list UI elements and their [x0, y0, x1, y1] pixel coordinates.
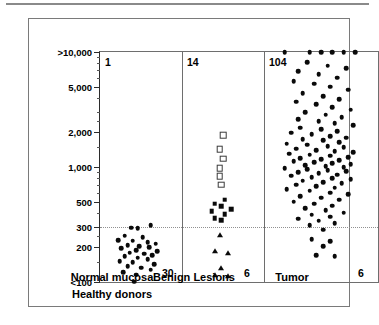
data-point	[323, 112, 328, 117]
data-point	[335, 129, 340, 134]
data-point	[298, 194, 303, 199]
y-axis-tick-label: 2,000	[68, 127, 92, 138]
data-point	[328, 239, 333, 244]
data-point	[140, 235, 145, 240]
data-point	[348, 107, 353, 112]
y-axis-minor-tick	[97, 121, 101, 122]
data-point	[150, 253, 155, 258]
data-point	[216, 165, 223, 172]
data-point	[291, 159, 296, 164]
group-label-benign-lesions: Benign Lesions	[153, 271, 235, 283]
panel-count-bottom: 6	[244, 267, 250, 279]
data-point	[321, 244, 326, 249]
data-point	[139, 265, 144, 270]
y-axis-minor-tick	[97, 193, 101, 194]
data-point	[330, 203, 335, 208]
panel-count-top: 14	[187, 56, 199, 68]
data-point	[335, 75, 340, 80]
data-point	[316, 219, 321, 224]
data-point	[328, 214, 333, 219]
data-point	[310, 132, 315, 137]
data-point	[321, 227, 326, 232]
data-point	[348, 162, 353, 167]
data-point	[316, 72, 321, 77]
data-point	[330, 105, 335, 110]
data-point	[319, 127, 324, 132]
data-point	[220, 132, 227, 139]
data-point	[305, 60, 310, 65]
data-point	[145, 257, 150, 262]
data-point	[122, 234, 127, 239]
panel-count-bottom: 6	[358, 267, 364, 279]
data-point	[328, 154, 333, 159]
y-axis-minor-tick	[97, 57, 101, 58]
data-point	[332, 254, 337, 259]
y-axis-minor-tick	[97, 172, 101, 173]
data-point	[342, 50, 347, 55]
panel-count-top: 104	[269, 56, 287, 68]
data-point	[316, 119, 321, 124]
data-point	[131, 239, 136, 244]
data-point	[326, 168, 331, 173]
panel-divider	[264, 52, 265, 282]
data-point	[225, 250, 231, 255]
data-point	[353, 50, 358, 55]
data-point	[332, 221, 337, 226]
data-point	[330, 176, 335, 181]
data-point	[305, 142, 310, 147]
data-point	[326, 144, 331, 149]
data-point	[351, 150, 356, 155]
data-point	[314, 102, 319, 107]
data-point	[122, 254, 127, 259]
data-point	[127, 250, 132, 255]
data-point	[294, 183, 299, 188]
data-point	[209, 209, 214, 214]
y-axis-tick-label: >10,000	[57, 47, 92, 58]
data-point	[344, 135, 349, 140]
data-point	[153, 241, 158, 246]
data-point	[330, 161, 335, 166]
data-point	[303, 206, 308, 211]
plot-area: >10,0005,0002,0001,000500300200<10013014…	[99, 51, 379, 283]
data-point	[217, 232, 223, 237]
data-point	[291, 199, 296, 204]
data-point	[296, 216, 301, 221]
data-point	[134, 248, 139, 253]
data-point	[337, 197, 342, 202]
data-point	[289, 173, 294, 178]
data-point	[291, 79, 296, 84]
figure-frame: CEA tissue content (ng/mg protein) >10,0…	[28, 18, 350, 307]
data-point	[289, 131, 294, 136]
data-point	[219, 204, 224, 209]
data-point	[339, 115, 344, 120]
data-point	[314, 184, 319, 189]
data-point	[332, 185, 337, 190]
data-point	[135, 226, 140, 231]
data-point	[300, 178, 305, 183]
y-axis-minor-tick	[97, 213, 101, 214]
data-point	[342, 145, 347, 150]
data-point	[337, 158, 342, 163]
data-point	[145, 240, 150, 245]
data-point	[307, 50, 312, 55]
data-point	[321, 94, 326, 99]
data-point	[312, 81, 317, 86]
data-point	[126, 243, 131, 248]
data-point	[126, 264, 131, 269]
data-point	[212, 248, 218, 253]
data-point	[326, 63, 331, 68]
data-point	[319, 195, 324, 200]
data-point	[319, 50, 324, 55]
threshold-line	[100, 227, 378, 228]
data-point	[131, 260, 136, 265]
data-point	[314, 148, 319, 153]
data-point	[300, 91, 305, 96]
data-point	[316, 171, 321, 176]
data-point	[335, 172, 340, 177]
y-axis-tick-label: 500	[76, 196, 92, 207]
y-axis-minor-tick	[97, 236, 101, 237]
data-point	[135, 256, 140, 261]
data-point	[116, 238, 121, 243]
y-axis-tick-label: 1,000	[68, 162, 92, 173]
data-point	[147, 245, 152, 250]
